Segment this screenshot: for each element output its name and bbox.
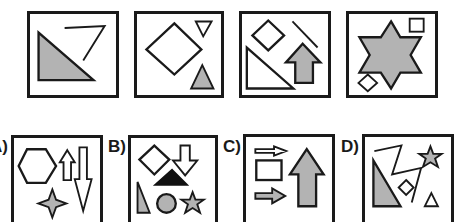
sequence-panel-4 — [346, 11, 438, 98]
option-c-shapes — [246, 137, 332, 222]
rectangle-icon — [256, 160, 281, 180]
circle-gray-icon — [157, 194, 176, 213]
right-triangle-icon — [247, 48, 294, 89]
option-c-label: C) — [223, 138, 241, 155]
star-gray-icon — [419, 146, 441, 167]
square-icon — [410, 19, 424, 32]
panel-1-shapes — [30, 14, 116, 95]
sequence-panel-2 — [134, 11, 224, 98]
zigzag-line-icon — [65, 26, 105, 60]
option-d-panel[interactable] — [362, 134, 454, 222]
diamond-icon — [139, 146, 169, 175]
option-b-panel[interactable] — [128, 135, 218, 222]
option-a-label: A) — [0, 138, 8, 155]
diamond-icon — [252, 21, 284, 51]
triangle-gray-icon — [191, 65, 213, 88]
sequence-panel-1 — [27, 11, 119, 98]
right-triangle-gray-icon — [373, 160, 400, 206]
down-arrow-long-icon — [75, 147, 92, 211]
option-d-label: D) — [341, 138, 359, 155]
up-arrow-gray-icon — [286, 44, 320, 83]
option-a-shapes — [14, 138, 100, 222]
four-point-star-gray-icon — [38, 189, 66, 217]
up-arrow-large-gray-icon — [290, 149, 324, 206]
panel-3-shapes — [242, 14, 328, 95]
diamond-small-icon — [399, 180, 414, 195]
up-arrow-small-icon — [60, 150, 75, 180]
diamond-large-icon — [146, 23, 201, 74]
right-triangle-gray-icon — [138, 182, 150, 213]
panel-4-shapes — [349, 14, 435, 95]
star-gray-icon — [181, 192, 203, 213]
hexagon-icon — [19, 149, 56, 183]
down-arrow-icon — [173, 146, 197, 176]
inverted-triangle-icon — [196, 21, 212, 36]
option-c-panel[interactable] — [243, 134, 335, 222]
option-b-shapes — [131, 138, 215, 222]
option-d-shapes — [365, 137, 451, 222]
diamond-small-icon — [358, 75, 377, 92]
diagonal-line-icon — [292, 21, 317, 47]
sequence-panel-3 — [239, 11, 331, 98]
option-b-label: B) — [108, 138, 126, 155]
right-arrow-icon — [255, 146, 286, 155]
panel-2-shapes — [137, 14, 221, 95]
triangle-icon — [425, 193, 438, 206]
right-arrow-gray-icon — [255, 188, 285, 203]
option-a-panel[interactable] — [11, 135, 103, 222]
